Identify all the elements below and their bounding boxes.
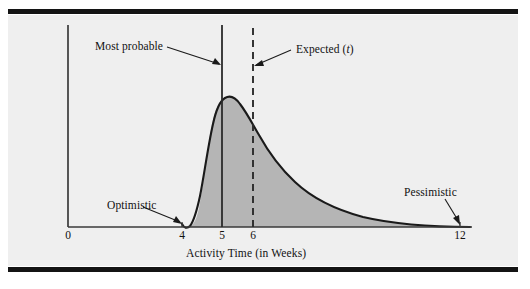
distribution-plot: [0, 0, 530, 289]
expected-label-prefix: Expected (: [296, 43, 347, 55]
expected-label: Expected (t): [296, 43, 354, 55]
x-tick-label-5: 5: [210, 229, 234, 241]
figure-container: Most probable Expected (t) Optimistic Pe…: [0, 0, 530, 289]
x-tick-label-4: 4: [170, 229, 194, 241]
expected-leader: [254, 50, 291, 66]
expected-label-suffix: ): [350, 43, 354, 55]
most-probable-leader: [167, 47, 221, 65]
optimistic-label: Optimistic: [107, 199, 157, 211]
x-tick-label-12: 12: [448, 229, 472, 241]
curve-fill: [188, 97, 470, 227]
x-axis-title: Activity Time (in Weeks): [186, 247, 306, 259]
pessimistic-leader: [445, 199, 460, 225]
x-tick-label-0: 0: [56, 229, 80, 241]
most-probable-label: Most probable: [95, 40, 163, 52]
pessimistic-label: Pessimistic: [404, 186, 457, 198]
x-tick-label-6: 6: [241, 229, 265, 241]
